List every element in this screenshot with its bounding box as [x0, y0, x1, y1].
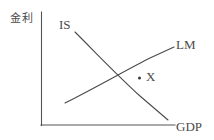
x-axis-label: GDP — [176, 120, 202, 133]
y-axis-label: 金利 — [10, 13, 33, 24]
point-x-marker — [138, 77, 141, 80]
lm-curve-label: LM — [176, 38, 196, 51]
is-curve-label: IS — [59, 18, 71, 31]
point-x-label: X — [146, 70, 155, 83]
lm-curve — [65, 47, 174, 103]
islm-diagram: 金利 IS LM GDP X — [0, 0, 214, 140]
